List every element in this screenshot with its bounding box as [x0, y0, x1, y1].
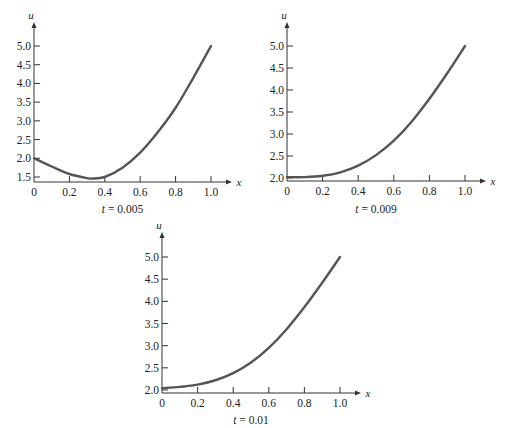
x-axis-arrow-icon [226, 180, 232, 185]
x-axis-label: x [236, 176, 242, 188]
time-caption: t = 0.01 [233, 414, 269, 426]
x-axis-label: x [490, 175, 496, 187]
y-tick-label: 5.0 [145, 251, 160, 263]
y-axis-label: u [281, 9, 287, 21]
x-axis-arrow-icon [480, 179, 486, 184]
y-tick-label: 4.0 [17, 77, 32, 89]
y-tick-label: 1.5 [17, 171, 32, 183]
y-tick-label: 4.5 [145, 273, 160, 285]
y-tick-label: 3.5 [17, 96, 32, 108]
solution-curve [34, 46, 211, 179]
x-tick-label: 1.0 [333, 397, 348, 409]
time-caption: t = 0.005 [102, 203, 144, 215]
y-tick-label: 2.0 [17, 152, 32, 164]
x-axis-label: x [365, 387, 371, 399]
y-tick-label: 2.5 [145, 362, 160, 374]
x-tick-label: 0.8 [168, 186, 183, 198]
x-tick-label: 0.2 [62, 186, 77, 198]
y-tick-label: 4.5 [270, 62, 285, 74]
y-axis-arrow-icon [160, 232, 165, 238]
y-tick-label: 4.0 [270, 84, 285, 96]
y-tick-label: 3.0 [17, 115, 32, 127]
y-axis-arrow-icon [285, 22, 290, 28]
y-axis-label: u [28, 9, 34, 21]
x-tick-label: 0.6 [387, 185, 402, 197]
x-tick-label: 0.6 [262, 397, 277, 409]
y-tick-label: 3.5 [145, 318, 160, 330]
figure-canvas: ux1.52.02.53.03.54.04.55.000.20.40.60.81… [0, 0, 507, 428]
y-tick-label: 3.5 [270, 106, 285, 118]
y-tick-label: 4.5 [17, 59, 32, 71]
x-axis-arrow-icon [355, 391, 361, 396]
y-tick-label: 4.0 [145, 295, 160, 307]
y-tick-label: 3.0 [145, 340, 160, 352]
x-tick-label: 0.8 [422, 185, 437, 197]
y-tick-label: 5.0 [17, 40, 32, 52]
x-tick-label: 1.0 [204, 186, 219, 198]
chart-t-0009: ux2.02.53.03.54.04.55.000.20.40.60.81.0t… [270, 9, 496, 215]
x-tick-label: 0 [284, 185, 290, 197]
x-tick-label: 0.4 [226, 397, 241, 409]
x-tick-label: 0.4 [98, 186, 113, 198]
y-tick-label: 2.0 [145, 384, 160, 396]
y-tick-label: 2.5 [270, 150, 285, 162]
chart-t-001: ux2.02.53.03.54.04.55.000.20.40.60.81.0t… [145, 219, 371, 426]
solution-curve [162, 257, 340, 388]
x-tick-label: 0 [159, 397, 165, 409]
y-axis-label: u [156, 219, 162, 231]
x-tick-label: 0.4 [351, 185, 366, 197]
x-tick-label: 0 [31, 186, 37, 198]
time-caption: t = 0.009 [355, 203, 397, 215]
y-axis-arrow-icon [32, 22, 37, 28]
y-tick-label: 5.0 [270, 40, 285, 52]
solution-curve [287, 46, 465, 177]
chart-t-0005: ux1.52.02.53.03.54.04.55.000.20.40.60.81… [17, 9, 242, 215]
x-tick-label: 1.0 [458, 185, 473, 197]
x-tick-label: 0.6 [133, 186, 148, 198]
y-tick-label: 2.0 [270, 172, 285, 184]
y-tick-label: 3.0 [270, 128, 285, 140]
y-tick-label: 2.5 [17, 134, 32, 146]
x-tick-label: 0.8 [297, 397, 312, 409]
x-tick-label: 0.2 [190, 397, 205, 409]
x-tick-label: 0.2 [315, 185, 330, 197]
